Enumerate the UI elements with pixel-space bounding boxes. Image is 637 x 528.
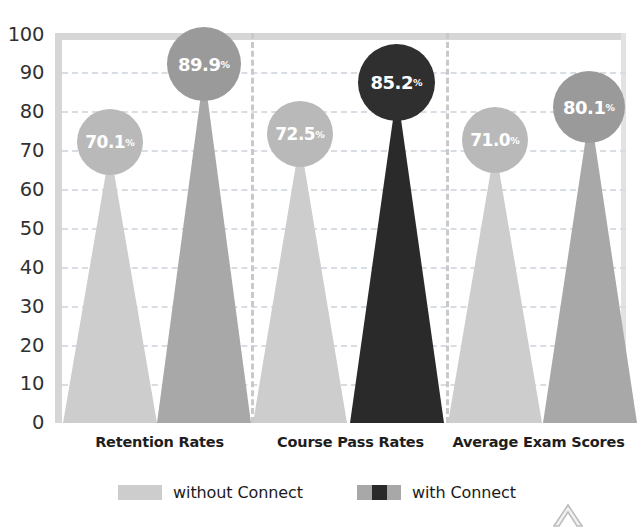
chevron-up-icon <box>553 503 583 527</box>
value-text: 72.5 <box>275 124 315 144</box>
percent-sign: % <box>125 137 135 148</box>
value-text: 85.2 <box>371 72 413 93</box>
legend: without Connect with Connect <box>0 483 634 502</box>
y-tick-80: 80 <box>0 100 44 123</box>
bar-examscores-with-connect <box>543 110 637 423</box>
legend-label-without-connect: without Connect <box>173 483 303 502</box>
percent-sign: % <box>413 77 423 88</box>
y-tick-70: 70 <box>0 139 44 162</box>
y-tick-20: 20 <box>0 334 44 357</box>
gridline-80 <box>62 111 626 113</box>
value-text: 70.1 <box>85 132 125 152</box>
y-tick-100: 100 <box>0 23 44 46</box>
legend-swatch-mid <box>133 485 148 500</box>
y-tick-0: 0 <box>0 411 44 434</box>
value-bubble-coursepass-without-connect: 72.5% <box>267 101 333 167</box>
y-tick-90: 90 <box>0 61 44 84</box>
gridline-90 <box>62 72 626 74</box>
category-label-average-exam-scores: Average Exam Scores <box>441 434 636 450</box>
y-tick-10: 10 <box>0 372 44 395</box>
value-text: 80.1 <box>563 97 605 118</box>
value-bubble-examscores-without-connect: 71.0% <box>462 107 528 173</box>
value-bubble-examscores-with-connect: 80.1% <box>553 71 625 143</box>
value-text: 71.0 <box>470 130 510 150</box>
category-label-retention-rates: Retention Rates <box>62 434 257 450</box>
bar-examscores-without-connect <box>448 146 542 423</box>
value-text: 89.9 <box>178 54 220 75</box>
legend-swatch-mid <box>372 485 387 500</box>
y-tick-30: 30 <box>0 295 44 318</box>
percent-sign: % <box>315 129 325 140</box>
y-tick-50: 50 <box>0 217 44 240</box>
value-bubble-retention-without-connect: 70.1% <box>77 109 143 175</box>
percent-sign: % <box>510 135 520 146</box>
legend-item-with-connect[interactable]: with Connect <box>357 483 516 502</box>
category-label-course-pass-rates: Course Pass Rates <box>253 434 448 450</box>
y-tick-60: 60 <box>0 178 44 201</box>
plot-area: 70.1% 89.9% 72.5% 85.2% 71.0% 80.1% <box>55 33 626 423</box>
plot-border-top <box>55 33 626 40</box>
bar-coursepass-with-connect <box>350 91 444 423</box>
percent-sign: % <box>220 59 230 70</box>
percent-sign: % <box>605 102 615 113</box>
legend-swatch-with-connect <box>357 485 401 500</box>
bar-retention-without-connect <box>63 149 157 423</box>
legend-label-with-connect: with Connect <box>412 483 516 502</box>
y-tick-40: 40 <box>0 256 44 279</box>
legend-item-without-connect[interactable]: without Connect <box>118 483 303 502</box>
bar-retention-with-connect <box>157 72 251 423</box>
legend-swatch-without-connect <box>118 485 162 500</box>
plot-border-left <box>55 33 62 423</box>
value-bubble-coursepass-with-connect: 85.2% <box>358 44 435 121</box>
bar-coursepass-without-connect <box>253 140 347 423</box>
value-bubble-retention-with-connect: 89.9% <box>167 27 241 101</box>
